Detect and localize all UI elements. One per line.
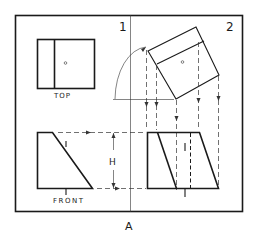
outer-frame (16, 16, 243, 212)
top-view: TOP (38, 40, 95, 101)
hole-marker (64, 62, 67, 65)
height-dimension: H (109, 133, 116, 188)
dimension-label-h: H (109, 157, 116, 167)
front-view: FRONT (38, 133, 93, 206)
auxiliary-front-view (148, 133, 219, 198)
rotation-construction (113, 47, 174, 100)
top-view-label: TOP (53, 92, 71, 100)
figure-label: A (125, 220, 133, 233)
hole-marker-rotated (181, 61, 184, 64)
label-frame-2: 2 (226, 20, 234, 34)
rotated-top-view (148, 27, 219, 99)
label-frame-1: 1 (119, 20, 127, 34)
projection-lines-horizontal (58, 131, 146, 191)
front-view-label: FRONT (53, 197, 84, 205)
drawing-canvas: 1 2 TOP FRONT (0, 0, 256, 243)
